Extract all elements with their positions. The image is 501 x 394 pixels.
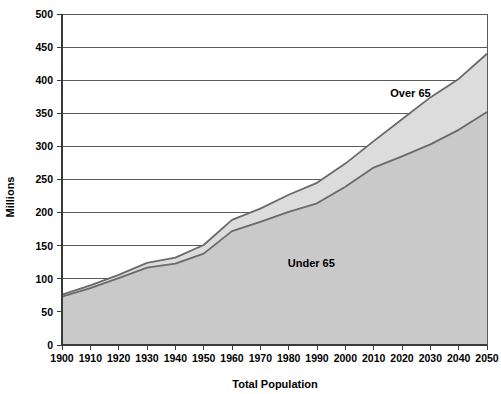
x-tick-label: 1910 (79, 352, 103, 364)
y-axis-title: Millions (4, 177, 16, 218)
y-tick-label: 500 (35, 8, 53, 20)
x-tick-label: 2040 (447, 352, 471, 364)
x-axis: 1900191019201930194019501960197019801990… (50, 345, 499, 364)
x-tick-label: 2020 (390, 352, 414, 364)
y-tick-label: 100 (35, 273, 53, 285)
y-tick-label: 350 (35, 107, 53, 119)
y-tick-label: 400 (35, 74, 53, 86)
x-tick-label: 1980 (277, 352, 301, 364)
x-tick-label: 1900 (50, 352, 74, 364)
x-tick-label: 1970 (249, 352, 273, 364)
x-tick-label: 2000 (334, 352, 358, 364)
x-tick-label: 2010 (362, 352, 386, 364)
y-axis: 050100150200250300350400450500 (35, 8, 62, 351)
x-tick-label: 1990 (305, 352, 329, 364)
x-tick-label: 2030 (419, 352, 443, 364)
y-tick-label: 200 (35, 206, 53, 218)
y-tick-label: 50 (41, 306, 53, 318)
x-axis-title: Total Population (232, 378, 318, 390)
y-tick-label: 0 (47, 339, 53, 351)
x-tick-label: 1950 (192, 352, 216, 364)
series-label-over-65: Over 65 (390, 87, 430, 99)
x-tick-label: 1920 (107, 352, 131, 364)
x-tick-label: 1940 (164, 352, 188, 364)
y-tick-label: 450 (35, 41, 53, 53)
y-tick-label: 250 (35, 173, 53, 185)
population-area-chart: 050100150200250300350400450500 190019101… (0, 0, 501, 394)
x-tick-label: 1930 (135, 352, 159, 364)
chart-container: 050100150200250300350400450500 190019101… (0, 0, 501, 394)
x-tick-label: 1960 (220, 352, 244, 364)
x-tick-label: 2050 (475, 352, 499, 364)
y-tick-label: 150 (35, 240, 53, 252)
y-tick-label: 300 (35, 140, 53, 152)
series-label-under-65: Under 65 (288, 257, 335, 269)
